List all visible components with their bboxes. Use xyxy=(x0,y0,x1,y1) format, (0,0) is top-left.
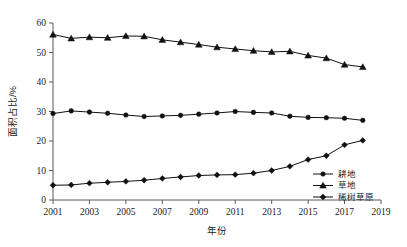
x-tick-label: 2009 xyxy=(189,207,208,217)
x-tick-label: 2003 xyxy=(80,207,99,217)
legend-marker xyxy=(320,194,326,200)
chart-legend: 耕地草地稀树草原 xyxy=(313,169,374,202)
data-point xyxy=(232,172,238,178)
data-point xyxy=(269,168,275,174)
data-point xyxy=(251,110,256,115)
data-series xyxy=(50,31,366,188)
legend-label: 草地 xyxy=(338,180,356,190)
data-point xyxy=(69,109,74,114)
data-point xyxy=(160,114,165,119)
x-tick-label: 2005 xyxy=(116,207,135,217)
data-point xyxy=(341,61,348,67)
data-point xyxy=(142,114,147,119)
y-tick-label: 10 xyxy=(37,166,47,176)
x-tick-label: 2013 xyxy=(262,207,281,217)
data-point xyxy=(342,116,347,121)
data-point xyxy=(124,113,129,118)
data-point xyxy=(123,179,129,185)
legend-item-1[interactable]: 耕地 xyxy=(313,169,356,179)
data-point xyxy=(287,163,293,169)
legend-item-2[interactable]: 草地 xyxy=(313,180,356,190)
legend-label: 稀树草原 xyxy=(338,192,374,202)
legend-label: 耕地 xyxy=(338,169,356,179)
x-tick-label: 2011 xyxy=(226,207,245,217)
data-point xyxy=(288,114,293,119)
data-point xyxy=(87,110,92,115)
legend-marker xyxy=(321,172,326,177)
y-tick-label: 60 xyxy=(37,18,47,28)
data-point xyxy=(306,115,311,120)
data-point xyxy=(360,138,366,144)
data-point xyxy=(342,142,348,148)
data-point xyxy=(305,157,311,163)
x-tick-label: 2015 xyxy=(299,207,318,217)
chart-container: 0102030405060200120032005200720092011201… xyxy=(0,0,407,247)
line-chart: 0102030405060200120032005200720092011201… xyxy=(0,0,407,247)
x-tick-label: 2019 xyxy=(372,207,391,217)
data-point xyxy=(323,153,329,159)
x-axis-title: 年份 xyxy=(207,225,227,236)
series-2 xyxy=(50,31,366,69)
y-tick-label: 50 xyxy=(37,48,47,58)
x-tick-label: 2017 xyxy=(335,207,354,217)
data-point xyxy=(51,111,56,116)
y-tick-label: 20 xyxy=(37,136,47,146)
y-tick-label: 40 xyxy=(37,77,47,87)
data-point xyxy=(178,174,184,180)
data-point xyxy=(360,118,365,123)
series-3 xyxy=(50,138,366,189)
data-point xyxy=(68,182,74,188)
data-point xyxy=(251,170,257,176)
data-point xyxy=(50,31,57,37)
data-point xyxy=(87,180,93,186)
data-point xyxy=(105,111,110,116)
data-point xyxy=(214,172,220,178)
y-axis-title: 面积占比/% xyxy=(7,85,18,137)
data-point xyxy=(196,112,201,117)
y-tick-label: 30 xyxy=(37,107,47,117)
data-point xyxy=(324,115,329,120)
x-tick-label: 2001 xyxy=(44,207,63,217)
y-tick-label: 0 xyxy=(41,195,46,205)
series-1 xyxy=(51,109,365,123)
data-point xyxy=(196,173,202,179)
data-point xyxy=(105,179,111,185)
data-point xyxy=(178,113,183,118)
data-point xyxy=(269,111,274,116)
x-tick-label: 2007 xyxy=(153,207,172,217)
data-point xyxy=(159,176,165,182)
data-point xyxy=(233,109,238,114)
data-point xyxy=(50,182,56,188)
data-point xyxy=(215,111,220,116)
data-point xyxy=(141,177,147,183)
